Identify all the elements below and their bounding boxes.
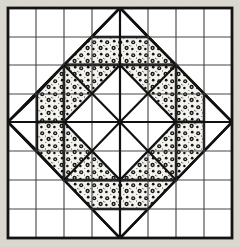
quilt-block-drawing — [0, 0, 240, 247]
quilt-block-figure: Quilt block pattern diagram Quilt block … — [0, 0, 240, 247]
